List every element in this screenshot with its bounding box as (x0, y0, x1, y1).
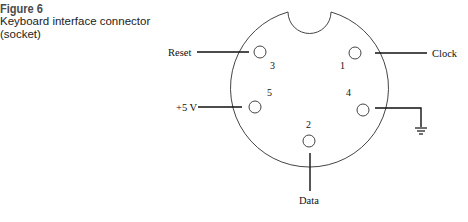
pin-3-reset: Reset 3 (168, 46, 275, 71)
reset-label: Reset (168, 47, 191, 58)
data-label: Data (299, 195, 319, 206)
pin-1-number: 1 (340, 60, 345, 71)
vcc-label: +5 V (176, 102, 198, 113)
pin-5-number: 5 (267, 87, 272, 98)
pin-5-hole (249, 101, 261, 113)
pin-1-clock: Clock 1 (340, 47, 458, 71)
pin-2-hole (303, 135, 315, 147)
clock-label: Clock (432, 48, 458, 59)
ground-icon (415, 128, 427, 134)
pin-2-number: 2 (306, 119, 311, 130)
pin-4-hole (357, 104, 369, 116)
pin-2-data: Data 2 (299, 119, 319, 206)
socket-outline (231, 12, 389, 167)
pin-3-hole (254, 46, 266, 58)
pin-3-number: 3 (270, 60, 275, 71)
pin-4-ground: 4 (346, 87, 427, 134)
ground-lead (375, 108, 421, 127)
pin-1-hole (349, 47, 361, 59)
pin-4-number: 4 (346, 87, 351, 98)
connector-diagram: Reset 3 Clock 1 +5 V 5 4 Data 2 (0, 0, 468, 222)
pin-5-vcc: +5 V 5 (176, 87, 272, 113)
